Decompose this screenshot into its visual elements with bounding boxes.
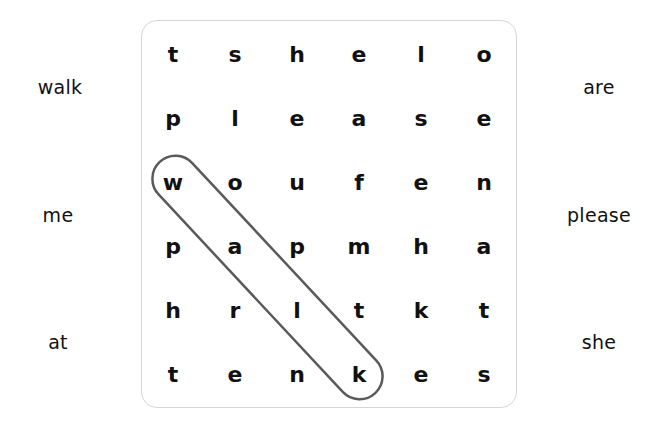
grid-cell[interactable]: p (153, 99, 193, 139)
grid-cell[interactable]: k (401, 291, 441, 331)
grid-cell[interactable]: t (339, 291, 379, 331)
grid-cell[interactable]: h (153, 291, 193, 331)
grid-cell[interactable]: e (464, 99, 504, 139)
grid-cell[interactable]: h (401, 227, 441, 267)
word-walk: walk (38, 76, 83, 98)
word-me: me (43, 204, 74, 226)
grid-cell[interactable]: u (277, 163, 317, 203)
grid-cell[interactable]: h (277, 35, 317, 75)
grid-cell[interactable]: e (277, 99, 317, 139)
word-search-grid (141, 20, 517, 408)
word-are: are (583, 76, 615, 98)
grid-cell[interactable]: t (153, 355, 193, 395)
grid-cell[interactable]: p (153, 227, 193, 267)
grid-cell[interactable]: o (215, 163, 255, 203)
grid-cell[interactable]: t (153, 35, 193, 75)
grid-cell[interactable]: s (215, 35, 255, 75)
grid-cell[interactable]: k (339, 355, 379, 395)
grid-cell[interactable]: m (339, 227, 379, 267)
grid-cell[interactable]: n (464, 163, 504, 203)
grid-cell[interactable]: e (401, 355, 441, 395)
grid-cell[interactable]: a (215, 227, 255, 267)
grid-cell[interactable]: e (339, 35, 379, 75)
grid-cell[interactable]: p (277, 227, 317, 267)
grid-cell[interactable]: o (464, 35, 504, 75)
word-she: she (582, 331, 617, 353)
word-at: at (48, 331, 68, 353)
grid-cell[interactable]: w (153, 163, 193, 203)
grid-cell[interactable]: f (339, 163, 379, 203)
grid-cell[interactable]: e (215, 355, 255, 395)
grid-cell[interactable]: s (464, 355, 504, 395)
grid-cell[interactable]: r (215, 291, 255, 331)
grid-cell[interactable]: l (401, 35, 441, 75)
grid-cell[interactable]: s (401, 99, 441, 139)
grid-cell[interactable]: a (464, 227, 504, 267)
grid-cell[interactable]: n (277, 355, 317, 395)
grid-cell[interactable]: t (464, 291, 504, 331)
word-please: please (567, 204, 631, 226)
grid-cell[interactable]: e (401, 163, 441, 203)
grid-cell[interactable]: a (339, 99, 379, 139)
grid-cell[interactable]: l (277, 291, 317, 331)
grid-cell[interactable]: l (215, 99, 255, 139)
